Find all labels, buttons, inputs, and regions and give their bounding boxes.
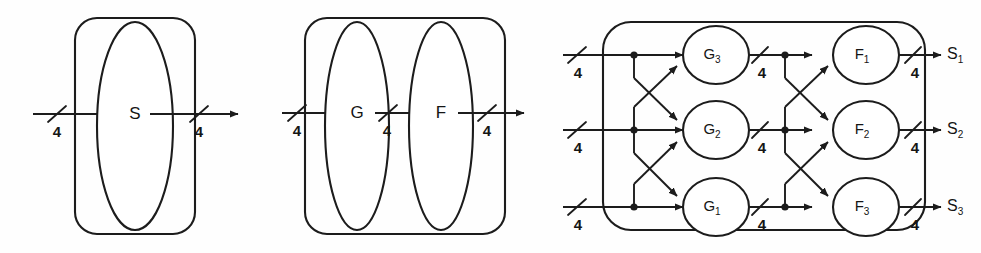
block-f-label: F xyxy=(436,103,446,122)
output-label-s2: S2 xyxy=(947,120,964,139)
panel-s-output-bus-label: 4 xyxy=(195,123,204,140)
diagram-canvas: 4 S 4 4 G 4 F xyxy=(0,0,981,253)
figure-root: 4 S 4 4 G 4 F xyxy=(0,0,981,253)
network-middle-bus-label-row0: 4 xyxy=(758,64,767,81)
network-input-bus-label-row2: 4 xyxy=(574,216,583,233)
panel-gf-input-bus-label: 4 xyxy=(293,122,302,139)
network-cross-in-2to1 xyxy=(634,142,677,184)
panel-cascade: 4 G 4 F 4 xyxy=(282,18,524,234)
network-middle-bus-label-row1: 4 xyxy=(758,139,767,156)
block-f-shape xyxy=(409,22,473,230)
panel-network: 4 4 4 G3 G2 xyxy=(563,22,964,236)
network-output-bus-label-row0: 4 xyxy=(911,64,920,81)
block-s-shape xyxy=(97,22,173,230)
panel-gf-internal-bus-label: 4 xyxy=(383,122,392,139)
panel-single-block: 4 S 4 xyxy=(33,18,238,234)
output-label-s3: S3 xyxy=(947,197,964,216)
panel-s-input-bus-label: 4 xyxy=(53,123,62,140)
panel-gf-output-bus-label: 4 xyxy=(483,122,492,139)
network-input-bus-label-row0: 4 xyxy=(574,64,583,81)
block-s-label: S xyxy=(129,104,140,123)
network-cross-mid-1to2 xyxy=(785,153,828,196)
network-cross-in-1to2 xyxy=(634,153,677,196)
network-cross-mid-2to1 xyxy=(785,142,828,184)
network-output-bus-label-row2: 4 xyxy=(911,216,920,233)
output-label-s1: S1 xyxy=(947,45,964,64)
network-input-bus-label-row1: 4 xyxy=(574,139,583,156)
network-cross-mid-0to1 xyxy=(785,78,828,120)
block-g-label: G xyxy=(350,103,363,122)
network-middle-bus-label-row2: 4 xyxy=(758,216,767,233)
network-cross-mid-1to0 xyxy=(785,66,828,107)
block-g-shape xyxy=(325,22,389,230)
network-cross-in-1to0 xyxy=(634,66,677,107)
network-cross-in-0to1 xyxy=(634,78,677,120)
network-output-bus-label-row1: 4 xyxy=(911,139,920,156)
